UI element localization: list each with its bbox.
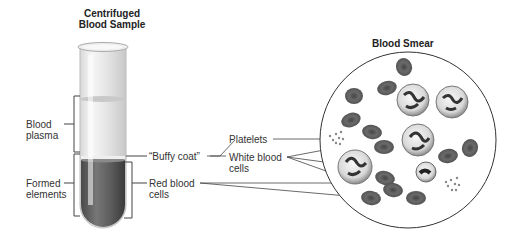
label-white-blood-cells: White blood cells <box>229 152 282 174</box>
label-red-blood-cells-line2: cells <box>149 189 195 200</box>
label-buffy-coat: “Buffy coat” <box>149 151 200 162</box>
right-brackets <box>124 156 147 218</box>
rbc-layer <box>81 160 125 227</box>
diagram-canvas <box>0 0 512 237</box>
label-white-blood-cells-line2: cells <box>229 163 282 174</box>
label-blood-plasma-line2: plasma <box>26 130 58 141</box>
test-tube <box>78 43 128 229</box>
label-blood-plasma: Blood plasma <box>26 119 58 141</box>
buffy-coat-layer <box>81 156 125 159</box>
plasma-surface <box>80 96 126 102</box>
label-formed-elements: Formed elements <box>26 178 67 200</box>
label-white-blood-cells-line1: White blood <box>229 152 282 163</box>
blood-smear <box>320 52 496 228</box>
label-red-blood-cells-line1: Red blood <box>149 178 195 189</box>
label-formed-elements-line1: Formed <box>26 178 67 189</box>
label-formed-elements-line2: elements <box>26 189 67 200</box>
label-blood-plasma-line1: Blood <box>26 119 58 130</box>
label-red-blood-cells: Red blood cells <box>149 178 195 200</box>
label-platelets: Platelets <box>229 134 267 145</box>
